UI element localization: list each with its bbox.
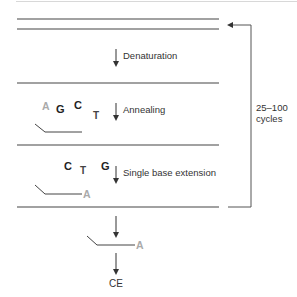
base-t-ext: T <box>80 165 86 176</box>
cycle-count-label: 25–100 <box>256 102 288 113</box>
cycle-unit-label: cycles <box>256 113 283 124</box>
step-label-annealing: Annealing <box>123 104 165 115</box>
incorporated-base-a: A <box>83 188 91 200</box>
product-primer <box>87 236 135 245</box>
base-g-ext: G <box>101 160 110 172</box>
base-g-free: G <box>56 103 65 115</box>
base-t-free: T <box>93 110 99 121</box>
step-label-extension: Single base extension <box>123 167 216 178</box>
primer-extended <box>35 185 82 194</box>
base-c-free: C <box>74 99 82 111</box>
output-label-ce: CE <box>109 278 123 289</box>
cycle-loop-line <box>228 25 251 207</box>
primer-annealed <box>35 124 82 132</box>
step-label-denaturation: Denaturation <box>123 50 177 61</box>
base-c-ext: C <box>64 160 72 172</box>
product-base-a: A <box>136 239 144 251</box>
base-a-free: A <box>42 100 50 112</box>
sbe-diagram: Denaturation A G C T Annealing C T G A S… <box>0 0 297 297</box>
